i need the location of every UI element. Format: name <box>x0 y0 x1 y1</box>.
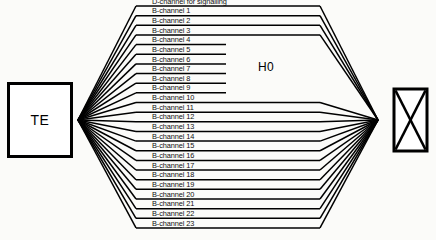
channel-label-b-12: B-channel 12 <box>152 113 194 121</box>
isdn-pri-diagram: TE H0 D-channel for signallingB-channel … <box>0 0 436 240</box>
channel-line <box>78 120 378 122</box>
channel-line-group <box>78 6 378 228</box>
channel-label-b-21: B-channel 21 <box>152 200 194 208</box>
channel-line <box>78 120 378 141</box>
channel-label-b-6: B-channel 6 <box>152 56 190 64</box>
channel-label-b-23: B-channel 23 <box>152 220 194 228</box>
channel-line <box>78 120 378 189</box>
channel-label-b-3: B-channel 3 <box>152 27 190 35</box>
channel-line <box>78 120 378 170</box>
h0-group-label: H0 <box>258 60 274 74</box>
channel-label-b-14: B-channel 14 <box>152 133 194 141</box>
channel-line <box>78 103 378 121</box>
channel-label-b-4: B-channel 4 <box>152 36 190 44</box>
channel-label-b-17: B-channel 17 <box>152 162 194 170</box>
channel-label-d: D-channel for signalling <box>152 0 227 6</box>
channel-line <box>78 120 378 160</box>
channel-line <box>78 112 378 120</box>
channel-label-b-13: B-channel 13 <box>152 123 194 131</box>
channel-label-b-20: B-channel 20 <box>152 191 194 199</box>
channel-label-b-15: B-channel 15 <box>152 142 194 150</box>
channel-label-b-5: B-channel 5 <box>152 46 190 54</box>
channel-label-b-22: B-channel 22 <box>152 210 194 218</box>
network-exchange-box[interactable] <box>394 89 427 151</box>
channel-label-b-8: B-channel 8 <box>152 75 190 83</box>
channel-label-b-2: B-channel 2 <box>152 17 190 25</box>
channel-label-b-10: B-channel 10 <box>152 94 194 102</box>
channel-label-b-1: B-channel 1 <box>152 7 190 15</box>
channel-label-b-19: B-channel 19 <box>152 181 194 189</box>
terminal-equipment-label: TE <box>8 83 72 157</box>
channel-label-b-9: B-channel 9 <box>152 84 190 92</box>
channel-label-b-11: B-channel 11 <box>152 104 194 112</box>
channel-label-b-7: B-channel 7 <box>152 65 190 73</box>
channel-label-b-18: B-channel 18 <box>152 171 194 179</box>
channel-label-b-16: B-channel 16 <box>152 152 194 160</box>
channel-line <box>78 120 378 151</box>
